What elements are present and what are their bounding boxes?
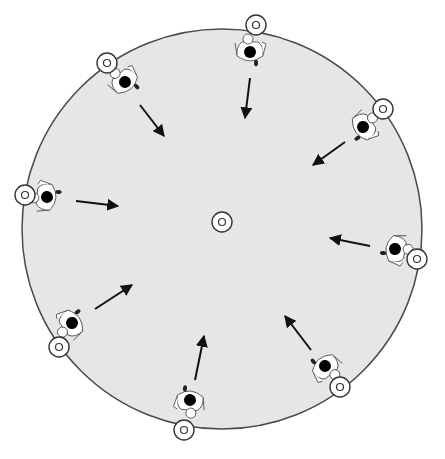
cone-icon bbox=[407, 249, 427, 269]
cone-icon bbox=[174, 420, 194, 440]
cone-icon bbox=[97, 53, 117, 73]
center-cone-icon bbox=[212, 212, 232, 232]
cone-icon bbox=[49, 337, 69, 357]
cone-icon bbox=[330, 377, 350, 397]
diagram-canvas bbox=[0, 0, 445, 459]
center-cone bbox=[212, 212, 232, 232]
cone-icon bbox=[15, 185, 35, 205]
cone-icon bbox=[246, 15, 266, 35]
cone-icon bbox=[373, 99, 393, 119]
drill-diagram bbox=[0, 0, 445, 459]
